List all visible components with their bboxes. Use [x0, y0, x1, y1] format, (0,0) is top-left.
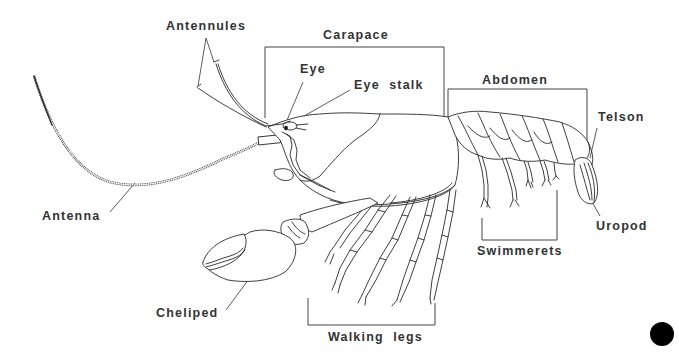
swimmerets-bracket: [482, 190, 557, 240]
label-abdomen: Abdomen: [482, 73, 548, 87]
crayfish-illustration: [0, 0, 679, 360]
crayfish-anatomy-diagram: Antennules Carapace Eye Eye stalk Abdome…: [0, 0, 679, 360]
label-swimmerets: Swimmerets: [477, 244, 563, 258]
swimmerets: [478, 155, 559, 208]
carapace: [266, 113, 459, 206]
label-antennules: Antennules: [166, 19, 246, 33]
label-cheliped: Cheliped: [156, 306, 218, 320]
label-walking-legs: Walking legs: [328, 330, 423, 344]
label-carapace: Carapace: [323, 28, 389, 42]
label-eye: Eye: [300, 62, 326, 76]
abdomen: [448, 111, 590, 164]
label-telson: Telson: [598, 110, 645, 124]
label-eye-stalk: Eye stalk: [354, 78, 424, 92]
antennules: [197, 60, 268, 127]
walking-legs-bracket: [308, 298, 435, 325]
marker-dot: [650, 322, 674, 346]
antenna: [34, 76, 281, 185]
label-antenna: Antenna: [42, 209, 100, 223]
cheliped: [203, 198, 378, 281]
label-uropod: Uropod: [596, 219, 648, 233]
